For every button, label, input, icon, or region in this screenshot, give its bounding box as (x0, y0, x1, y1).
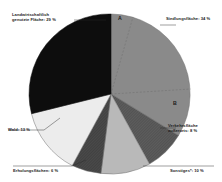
slice-label-erholungsflaechen: Erholungsflächen: 6 % (13, 168, 71, 173)
pie-chart-figure: Landwirtschaftlich genutzte Fläche: 29 %… (0, 0, 222, 182)
annotation-marker-a: A (118, 15, 122, 21)
slice-label-siedlungsflaeche: Siedlungsfläche: 34 % (166, 16, 220, 21)
slice-label-sonstiges: Sonstiges*: 10 % (170, 168, 220, 173)
annotation-marker-b: B (173, 100, 177, 106)
slice-label-verkehrsflaeche-ausserorts: Verkehrsfläche außerorts: 8 % (168, 123, 220, 133)
pie-chart-svg (0, 0, 222, 182)
slice-label-landwirtschaftlich-genutzte-flaeche: Landwirtschaftlich genutzte Fläche: 29 % (12, 12, 74, 22)
slice-label-wald: Wald: 13 % (8, 127, 44, 132)
